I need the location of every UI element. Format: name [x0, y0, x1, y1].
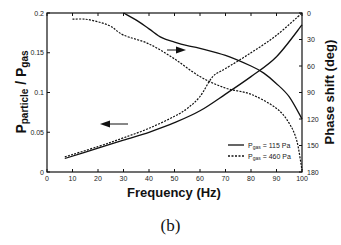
y2-axis-title: Phase shift (deg) — [322, 40, 337, 145]
y2-tick-label: 150 — [307, 142, 319, 149]
x-tick-label: 80 — [247, 175, 255, 182]
x-tick-label: 10 — [69, 175, 77, 182]
y-tick-label: 0.1 — [34, 89, 44, 96]
x-tick-label: 100 — [296, 175, 308, 182]
x-tick-label: 30 — [120, 175, 128, 182]
x-tick-label: 20 — [94, 175, 102, 182]
figure-caption: (b) — [0, 216, 341, 236]
y-tick-label: 0.05 — [30, 129, 44, 136]
legend-label-460: Pgas = 460 Pa — [248, 153, 291, 161]
left-axis-arrow-icon — [100, 121, 128, 128]
x-tick-label: 70 — [222, 175, 230, 182]
legend-label-115: Pgas = 115 Pa — [248, 142, 290, 150]
y2-tick-label: 120 — [307, 116, 319, 123]
y2-tick-label: 30 — [307, 36, 315, 43]
y-tick-label: 0.2 — [34, 10, 44, 17]
x-tick-label: 60 — [196, 175, 204, 182]
y-tick-label: 0 — [40, 169, 44, 176]
x-tick-label: 50 — [171, 175, 179, 182]
series-line-1 — [65, 13, 302, 157]
y2-tick-label: 180 — [307, 169, 319, 176]
y-tick-label: 0.15 — [30, 49, 44, 56]
y2-tick-label: 90 — [307, 89, 315, 96]
x-tick-label: 0 — [45, 175, 49, 182]
legend: Pgas = 115 Pa Pgas = 460 Pa — [228, 142, 291, 161]
right-axis-arrow-icon — [167, 47, 186, 54]
y2-tick-label: 60 — [307, 63, 315, 70]
chart: 0102030405060708090100 00.050.10.150.2 0… — [0, 0, 341, 245]
x-tick-label: 90 — [273, 175, 281, 182]
x-tick-label: 40 — [145, 175, 153, 182]
y2-tick-label: 0 — [307, 10, 311, 17]
x-axis-title: Frequency (Hz) — [127, 185, 221, 200]
y-axis-title: Pparticle / Pgas — [13, 50, 30, 134]
